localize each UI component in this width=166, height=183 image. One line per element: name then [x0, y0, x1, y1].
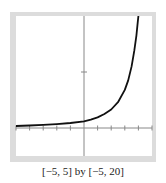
window-caption: [−5, 5] by [−5, 20]	[0, 165, 166, 177]
plot-area	[0, 0, 166, 183]
